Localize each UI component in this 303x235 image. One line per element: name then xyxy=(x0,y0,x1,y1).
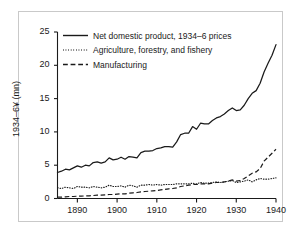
axis-lines xyxy=(58,32,277,199)
x-tick-label: 1940 xyxy=(256,205,296,215)
x-tick-label: 1920 xyxy=(177,205,217,215)
y-tick-label: 15 xyxy=(26,93,50,103)
y-tick-label: 0 xyxy=(26,193,50,203)
legend-item-label: Manufacturing xyxy=(93,60,147,70)
legend-item-label: Agriculture, forestry, and fishery xyxy=(93,45,212,55)
x-axis-ticks xyxy=(77,199,276,203)
series-line-manufacturing xyxy=(58,149,277,197)
x-tick-label: 1890 xyxy=(57,205,97,215)
y-tick-label: 20 xyxy=(26,59,50,69)
y-axis-label: 1934–6¥ (mn) xyxy=(11,69,21,149)
x-tick-label: 1900 xyxy=(97,205,137,215)
y-tick-label: 10 xyxy=(26,126,50,136)
y-tick-label: 25 xyxy=(26,26,50,36)
x-tick-label: 1910 xyxy=(137,205,177,215)
y-tick-label: 5 xyxy=(26,159,50,169)
legend-item-label: Net domestic product, 1934–6 prices xyxy=(93,31,231,41)
chart-figure: 1934–6¥ (mn) 0510152025 1890190019101920… xyxy=(0,0,303,235)
legend-swatches xyxy=(63,36,88,65)
series-line-net-domestic-product xyxy=(58,45,277,173)
x-tick-label: 1930 xyxy=(216,205,256,215)
series-lines xyxy=(58,45,277,198)
